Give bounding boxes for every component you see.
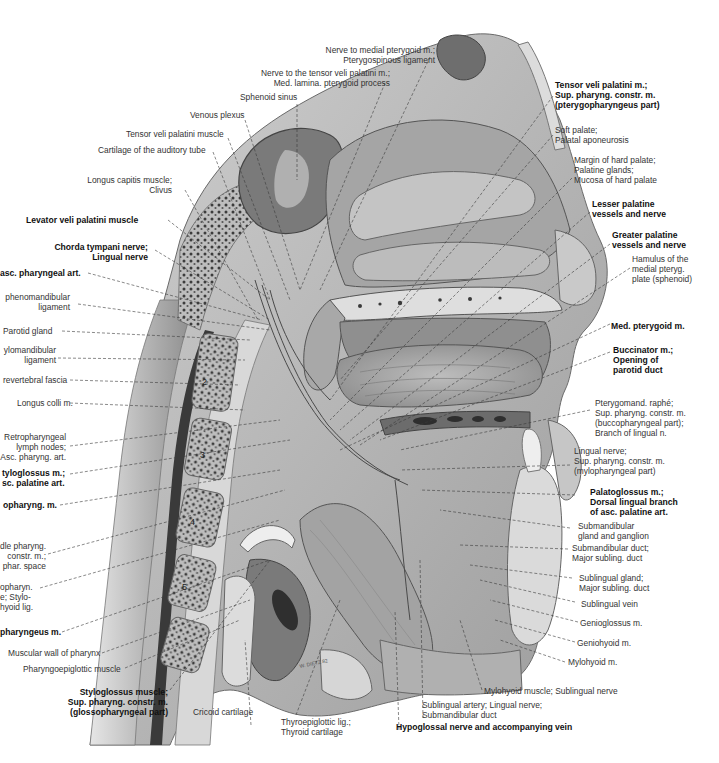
label-stylopharyngeus: opharyng. m.	[3, 500, 57, 510]
label-buccinator: Buccinator m.;Opening ofparotid duct	[613, 345, 673, 375]
svg-text:4: 4	[190, 517, 195, 527]
label-styloglossus-asc-palatine: tyloglossus m.;sc. palatine art.	[2, 468, 65, 488]
label-sublingual-artery: Sublingual artery; Lingual nerve;Submand…	[422, 700, 542, 720]
label-middle-pharyng-constr: dle pharyng.constr. m.;phar. space	[0, 541, 46, 571]
label-genioglossus: Genioglossus m.	[580, 618, 642, 628]
label-palatoglossus: Palatoglossus m.;Dorsal lingual branchof…	[590, 487, 678, 517]
label-muscular-wall-pharynx: Muscular wall of pharynx	[8, 648, 100, 658]
label-stylomandibular: ylomandibularligament	[0, 345, 56, 365]
label-retropharyngeal-nodes: Retropharyngeallymph nodes;Asc. pharyng.…	[0, 432, 66, 462]
label-nerve-medial-pterygoid: Nerve to medial pterygoid m.;Pterygospin…	[300, 45, 435, 65]
label-longus-colli: Longus colli m.	[17, 398, 73, 408]
label-parotid-gland: Parotid gland	[3, 326, 52, 336]
label-thyroepiglottic: Thyroepiglottic lig.;Thyroid cartilage	[281, 717, 351, 737]
label-pharyngoepiglottic: Pharyngoepiglottic muscle	[23, 664, 121, 674]
label-chorda-tympani: Chorda tympani nerve;Lingual nerve	[20, 242, 148, 262]
label-levator-veli: Levator veli palatini muscle	[26, 215, 138, 225]
label-nerve-tensor-veli: Nerve to the tensor veli palatini m.;Med…	[240, 68, 390, 88]
label-med-pterygoid: Med. pterygoid m.	[611, 321, 685, 331]
label-pterygomand-raphe: Pterygomand. raphé;Sup. pharyng. constr.…	[595, 398, 686, 438]
label-asc-pharyngeal-art: asc. pharyngeal art.	[0, 268, 81, 278]
label-geniohyoid: Geniohyoid m.	[577, 638, 631, 648]
label-hamulus: Hamulus of themedial pteryg.plate (sphen…	[632, 254, 692, 284]
label-submandibular-gland: Submandibulargland and ganglion	[578, 521, 649, 541]
label-venous-plexus: Venous plexus	[190, 110, 244, 120]
label-margin-hard-palate: Margin of hard palate;Palatine glands;Mu…	[574, 155, 657, 185]
label-lesser-palatine: Lesser palatinevessels and nerve	[592, 199, 666, 219]
label-sphenomandibular: phenomandibularligament	[0, 292, 70, 312]
label-mylohyoid-sublingual-nerve: Mylohyoid muscle; Sublingual nerve	[484, 686, 618, 696]
label-cartilage-auditory-tube: Cartilage of the auditory tube	[98, 145, 206, 155]
anatomical-illustration: 2 3 4 5	[0, 0, 719, 763]
label-sublingual-gland: Sublingual gland;Major subling. duct	[579, 573, 649, 593]
thyroid-cartilage	[222, 576, 255, 686]
svg-text:3: 3	[200, 450, 205, 460]
label-stylohyoid-lig: opharyn.e; Stylo-hyoid lig.	[0, 582, 33, 612]
label-tensor-veli-muscle: Tensor veli palatini muscle	[126, 129, 224, 139]
label-longus-capitis: Longus capitis muscle;Clivus	[70, 175, 172, 195]
label-cricoid-cartilage: Cricoid cartilage	[193, 707, 253, 717]
mandible	[507, 466, 561, 645]
svg-text:2: 2	[202, 377, 207, 387]
label-greater-palatine: Greater palatinevessels and nerve	[612, 230, 686, 250]
label-prevertebral-fascia: revertebral fascia	[3, 375, 67, 385]
label-submandibular-duct: Submandibular duct;Major subling. duct	[572, 543, 649, 563]
label-sphenoid-sinus: Sphenoid sinus	[240, 92, 297, 102]
label-sublingual-vein: Sublingual vein	[581, 599, 638, 609]
tongue-dorsum	[337, 345, 542, 407]
label-hypoglossal-nerve: Hypoglossal nerve and accompanying vein	[396, 722, 572, 732]
label-styloglossus-glossopharyngeal: Styloglossus muscle;Sup. pharyng. constr…	[60, 687, 168, 717]
label-lingual-nerve-mylo: Lingual nerve;Sup. pharyng. constr. m.(m…	[574, 446, 665, 476]
label-mylohyoid: Mylohyoid m.	[568, 657, 617, 667]
label-soft-palate: Soft palate;Palatal aponeurosis	[555, 125, 629, 145]
label-palatopharyngeus: pharyngeus m.	[0, 627, 61, 637]
label-tensor-veli-sup-constr: Tensor veli palatini m.;Sup. pharyng. co…	[555, 80, 660, 110]
